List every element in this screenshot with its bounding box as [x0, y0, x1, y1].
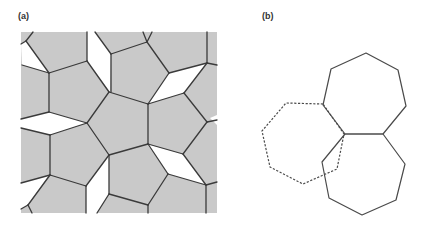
- heptagon-panel: [262, 53, 406, 215]
- dashed-heptagon: [262, 103, 344, 184]
- figure-canvas: [0, 0, 422, 226]
- pentagon-tiling-panel: [21, 32, 217, 213]
- bottom-heptagon: [322, 134, 405, 215]
